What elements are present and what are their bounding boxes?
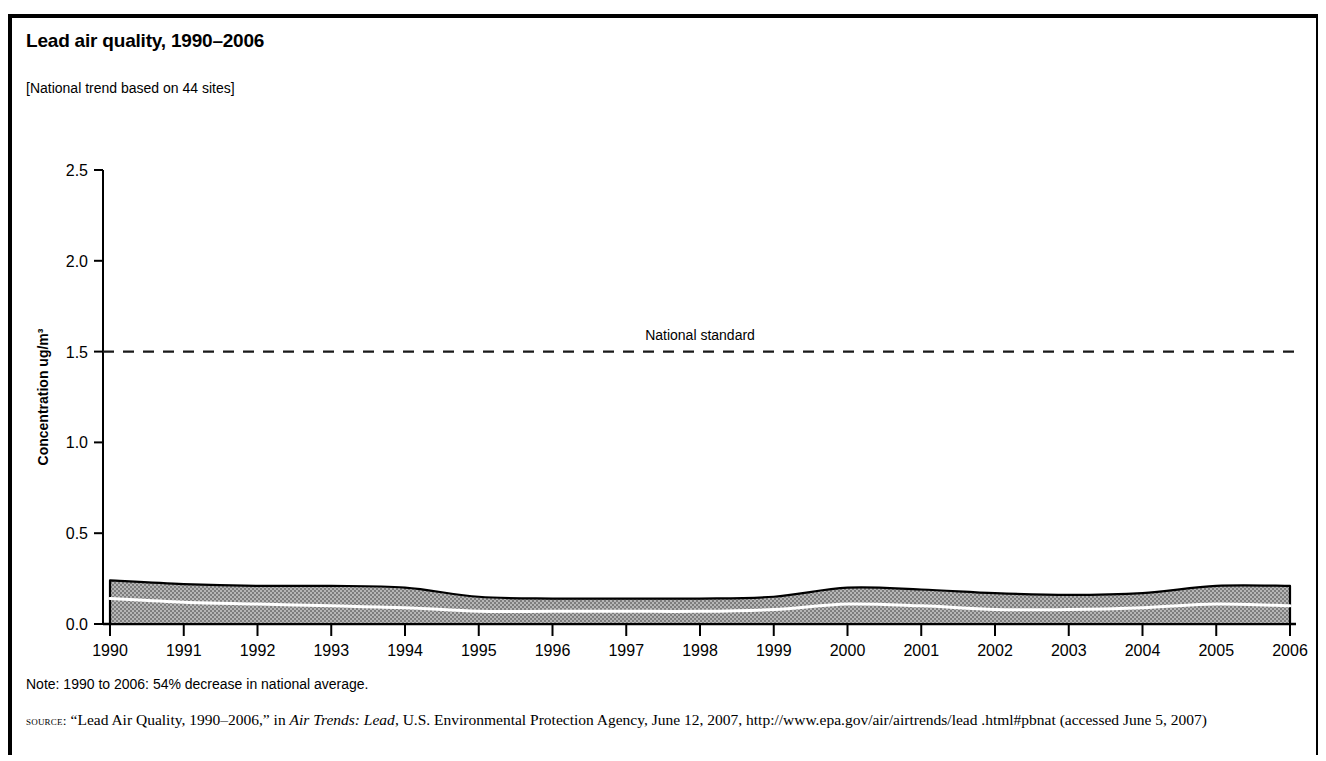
x-tick-label: 1997: [608, 642, 644, 659]
x-tick-label: 2006: [1272, 642, 1308, 659]
x-tick-label: 2003: [1051, 642, 1087, 659]
x-tick-label: 2001: [903, 642, 939, 659]
x-tick-label: 1993: [313, 642, 349, 659]
concentration-band: [110, 580, 1290, 624]
figure-note: Note: 1990 to 2006: 54% decrease in nati…: [26, 676, 368, 692]
y-tick-label: 1.0: [66, 434, 88, 451]
y-axis-ticks: 0.00.51.01.52.02.5: [66, 162, 103, 633]
x-axis-ticks: 1990199119921993199419951996199719981999…: [92, 624, 1308, 659]
y-tick-label: 1.5: [66, 344, 88, 361]
y-tick-label: 0.5: [66, 525, 88, 542]
x-tick-label: 1990: [92, 642, 128, 659]
x-tick-label: 1995: [461, 642, 497, 659]
y-tick-label: 0.0: [66, 616, 88, 633]
x-tick-label: 1994: [387, 642, 423, 659]
x-tick-label: 2000: [830, 642, 866, 659]
x-tick-label: 2004: [1125, 642, 1161, 659]
source-label: source:: [26, 713, 67, 728]
x-tick-label: 1992: [240, 642, 276, 659]
chart-area: Concentration ug/m³ 0.00.51.01.52.02.5 1…: [0, 0, 1326, 680]
y-axis-title: Concentration ug/m³: [35, 328, 51, 465]
x-tick-label: 1991: [166, 642, 202, 659]
y-tick-label: 2.0: [66, 253, 88, 270]
source-text-2: , U.S. Environmental Protection Agency, …: [395, 711, 1207, 728]
x-tick-label: 2002: [977, 642, 1013, 659]
x-tick-label: 2005: [1198, 642, 1234, 659]
source-italic-title: Air Trends: Lead: [290, 711, 395, 728]
source-text-1: “Lead Air Quality, 1990–2006,” in: [67, 711, 290, 728]
lead-air-quality-chart: Concentration ug/m³ 0.00.51.01.52.02.5 1…: [0, 0, 1326, 680]
national-standard-label: National standard: [645, 327, 755, 343]
x-tick-label: 1998: [682, 642, 718, 659]
figure-source: source: “Lead Air Quality, 1990–2006,” i…: [26, 710, 1304, 730]
y-tick-label: 2.5: [66, 162, 88, 179]
x-tick-label: 1999: [756, 642, 792, 659]
x-tick-label: 1996: [535, 642, 571, 659]
figure-lead-air-quality: Lead air quality, 1990–2006 [National tr…: [0, 0, 1326, 761]
